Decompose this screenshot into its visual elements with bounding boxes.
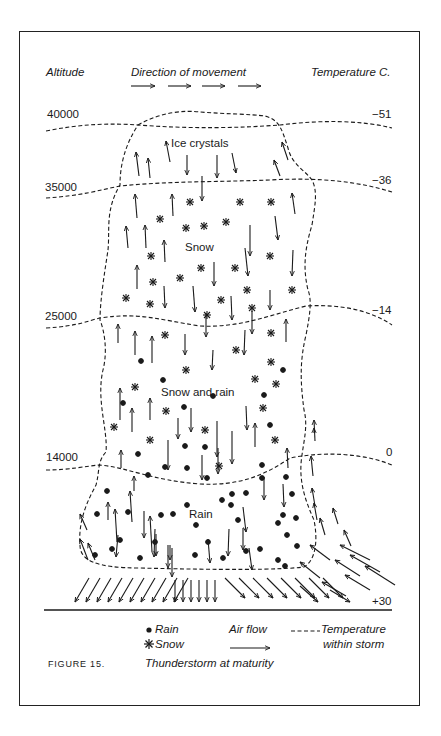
airflow-arrow [320,518,325,535]
rain-drop [139,359,144,364]
rain-drop [136,452,141,457]
legend-rain-icon [146,627,151,632]
rain-drop [281,513,286,518]
rain-drop [244,491,249,496]
rain-drop [194,523,199,528]
airflow-arrow [135,194,137,218]
airflow-arrow [275,216,278,240]
rain-drop [185,503,190,508]
snowflake [161,331,169,339]
rain-drop [95,512,100,517]
rain-drop [163,465,168,470]
airflow-arrow [130,491,132,522]
snowflake [248,304,256,312]
snowflake [146,300,154,308]
snowflake [182,224,190,232]
snowflake [156,215,164,223]
airflow-arrow [231,296,232,320]
rain-drop [262,393,267,398]
rain-drop [153,540,158,545]
snowflake [197,264,205,272]
legend-snow-label: Snow [155,639,184,651]
legend-rain-label: Rain [155,624,179,636]
rain-drop [236,518,241,523]
figure-caption: Thunderstorm at maturity [145,658,273,670]
legend-airflow-label: Air flow [229,624,267,636]
airflow-arrow [333,508,338,524]
airflow-arrow [365,566,395,585]
isotherms [46,122,392,485]
airflow-arrow [292,250,293,276]
rain-drop [220,498,225,503]
snowflake [267,329,275,337]
airflow-arrow [75,578,89,602]
snowflake [272,380,280,388]
airflow-arrow [130,578,144,602]
rain-drop [185,466,190,471]
airflow-arrow [126,226,128,248]
snowflake [267,358,275,366]
snowflake [201,426,209,434]
rain-drop [268,423,273,428]
snowflake [288,286,296,294]
rain-drop [285,533,290,538]
rain-drop [161,378,166,383]
snowflake [146,436,154,444]
airflow-arrow [150,516,152,552]
airflow-arrow [244,330,245,355]
airflow-arrow [287,448,288,468]
airflow-arrow [152,578,166,602]
snowflake [131,383,139,391]
airflow-arrow [166,141,170,162]
airflow-arrow [115,509,117,542]
rain-drop [276,558,281,563]
rain-drop [229,503,234,508]
airflow-arrow [249,548,252,570]
legend-temperature-label-2: within storm [323,639,384,651]
rain-drop [290,492,295,497]
airflow-arrow [164,240,165,262]
rain-drop [283,564,288,569]
rain-drop [294,516,299,521]
rain-drop [121,401,126,406]
snowflake [182,366,190,374]
snowflake [266,252,274,260]
snowflake [251,375,259,383]
rain-drop [138,556,143,561]
airflow-arrow [232,153,236,173]
airflow-arrow [86,578,100,602]
snowflake [110,423,118,431]
airflow-arrow [97,578,111,602]
rain-drop [203,445,208,450]
snowflake [217,296,225,304]
snowflake [271,436,279,444]
isotherm-minus-14 [46,306,392,328]
airflow-arrow [300,586,318,602]
snowflake [232,346,240,354]
airflow-arrow [246,406,247,430]
snowflake [243,286,251,294]
rain-drop [295,544,300,549]
airflow-arrow [300,562,320,578]
rain-drop [182,405,187,410]
snowflake [231,264,239,272]
airflow-arrow [282,142,288,160]
snowflake [186,198,194,206]
airflow-arrow [148,158,150,178]
storm-outline [80,111,316,569]
airflow-arrow [141,578,155,602]
airflow-arrow [228,529,229,556]
airflow-arrow [193,286,195,312]
airflow-arrow [119,578,133,602]
rain-drop [105,489,110,494]
airflow-arrow [310,545,330,560]
rain-drop [258,547,263,552]
airflow-arrow [344,530,351,546]
snowflake [267,198,275,206]
isotherm-minus-51 [46,122,392,131]
airflow-arrow [335,560,360,576]
airflow-arrow [212,350,213,370]
rain-drop [118,538,123,543]
rain-drop [244,549,249,554]
airflow-arrow [283,484,284,507]
